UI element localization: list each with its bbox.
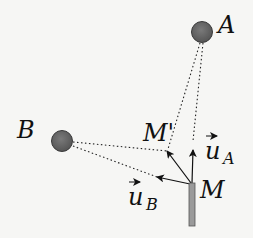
svg-text:A: A bbox=[221, 149, 235, 168]
point-a-circle bbox=[192, 22, 213, 43]
label-ua: u A bbox=[205, 136, 235, 168]
svg-text:u: u bbox=[205, 137, 220, 165]
vector-ua bbox=[192, 150, 193, 183]
svg-text:B: B bbox=[145, 195, 158, 214]
svg-text:u: u bbox=[128, 183, 143, 211]
label-mprime: M' bbox=[142, 119, 174, 147]
point-m-bar bbox=[189, 183, 195, 226]
label-a: A bbox=[216, 11, 235, 39]
label-ub: u B bbox=[128, 182, 158, 214]
vector-diagram: A B M' M u A u B bbox=[0, 0, 253, 238]
label-m: M bbox=[199, 176, 226, 204]
label-b: B bbox=[16, 116, 35, 144]
dotted-line-a-to-ua bbox=[193, 43, 203, 141]
point-b-circle bbox=[52, 131, 73, 152]
diagram-svg: A B M' M u A u B bbox=[0, 0, 253, 238]
vector-ub bbox=[157, 177, 190, 184]
vector-m-to-mprime bbox=[167, 151, 191, 183]
dotted-line-b-to-ub bbox=[73, 146, 157, 177]
